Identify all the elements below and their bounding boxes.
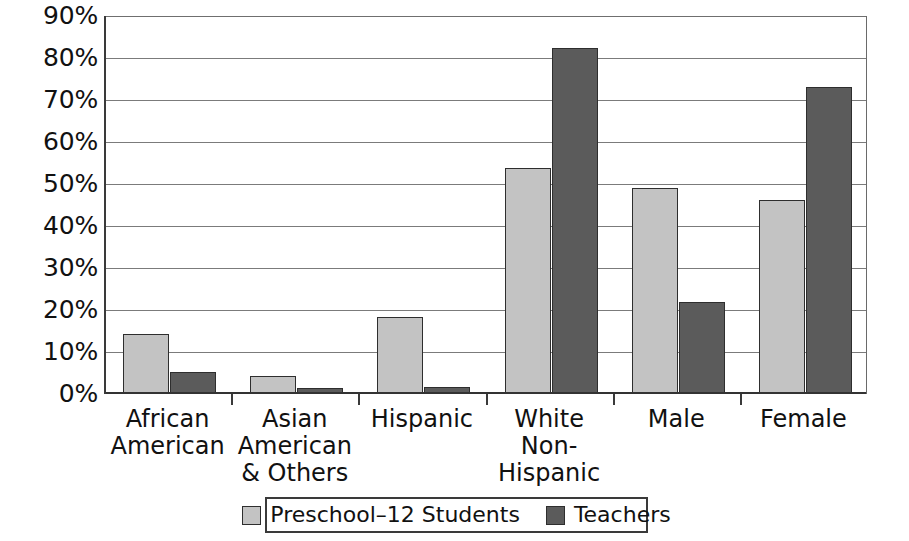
y-tick-label: 50% (2, 171, 98, 196)
x-axis-tick (486, 394, 488, 405)
y-tick-label: 80% (2, 45, 98, 70)
bar (123, 334, 169, 394)
legend-swatch-students (242, 506, 261, 525)
plot-area (104, 16, 867, 394)
y-tick-label: 0% (2, 381, 98, 406)
bar-group (488, 16, 615, 394)
y-tick-label: 60% (2, 129, 98, 154)
y-tick-label: 30% (2, 255, 98, 280)
legend-label: Preschool–12 Students (270, 504, 520, 526)
bar (505, 168, 551, 394)
x-axis-label: Male (613, 406, 740, 433)
x-axis-tick (613, 394, 615, 405)
x-axis-label: Hispanic (358, 406, 485, 433)
y-tick-label: 90% (2, 3, 98, 28)
bar (806, 87, 852, 394)
bar-group (615, 16, 742, 394)
bar-group (360, 16, 487, 394)
legend-label: Teachers (574, 504, 671, 526)
x-axis-tick (740, 394, 742, 405)
legend-item: Preschool–12 Students (242, 504, 520, 526)
bar (632, 188, 678, 394)
bar (759, 200, 805, 394)
bar (679, 302, 725, 394)
x-axis-tick (358, 394, 360, 405)
y-tick-label: 20% (2, 297, 98, 322)
bar-group (742, 16, 869, 394)
x-axis-ticks (104, 394, 867, 406)
y-tick-label: 10% (2, 339, 98, 364)
x-axis-label: African American (104, 406, 231, 460)
bar (170, 372, 216, 394)
x-axis-label: White Non-Hispanic (486, 406, 613, 487)
bar (552, 48, 598, 395)
y-axis: 90% 80% 70% 60% 50% 40% 30% 20% 10% 0% (0, 0, 98, 404)
legend-swatch-teachers (546, 506, 565, 525)
x-axis-label: Female (740, 406, 867, 433)
x-axis-tick (231, 394, 233, 405)
y-tick-label: 40% (2, 213, 98, 238)
bar-chart: 90% 80% 70% 60% 50% 40% 30% 20% 10% 0% A… (0, 0, 909, 541)
x-axis-label: Asian American & Others (231, 406, 358, 487)
bar-group (106, 16, 233, 394)
bar-group (233, 16, 360, 394)
legend: Preschool–12 Students Teachers (265, 497, 648, 533)
y-tick-label: 70% (2, 87, 98, 112)
x-axis-labels: African AmericanAsian American & OthersH… (104, 406, 867, 486)
bars-layer (106, 16, 866, 394)
bar (377, 317, 423, 394)
legend-item: Teachers (546, 504, 671, 526)
